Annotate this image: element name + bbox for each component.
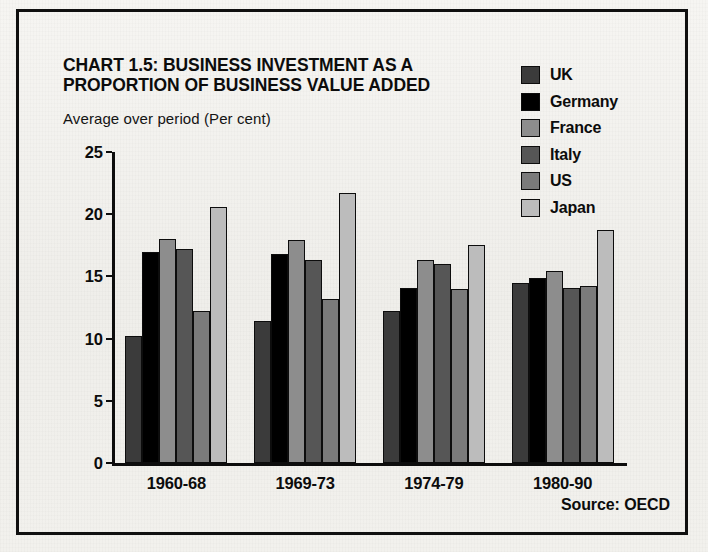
bar-japan xyxy=(210,207,227,463)
y-axis-tick-label: 20 xyxy=(85,205,103,224)
y-axis-tick-label: 0 xyxy=(94,454,103,473)
legend-label: Germany xyxy=(550,93,618,111)
bar-france xyxy=(546,271,563,463)
bar-france xyxy=(288,240,305,463)
source-note: Source: OECD xyxy=(561,496,670,514)
x-axis-category-label: 1969-73 xyxy=(276,474,335,493)
bar-japan xyxy=(597,230,614,463)
bar-group-bars xyxy=(254,152,356,463)
y-axis-tick-label: 5 xyxy=(94,391,103,410)
x-axis-category-label: 1960-68 xyxy=(147,474,206,493)
bar-uk xyxy=(254,321,271,463)
bar-us xyxy=(322,299,339,463)
legend-label: UK xyxy=(550,66,573,84)
bar-group-bars xyxy=(383,152,485,463)
bar-uk xyxy=(125,336,142,463)
bar-japan xyxy=(339,193,356,463)
legend-item: Germany xyxy=(521,89,618,116)
bar-group-bars xyxy=(512,152,614,463)
page-title: CHART 1.5: BUSINESS INVESTMENT AS A PROP… xyxy=(63,55,483,96)
bar-italy xyxy=(176,249,193,463)
bar-group: 1974-79 xyxy=(370,152,499,463)
bar-groups: 1960-681969-731974-791980-90 xyxy=(112,152,627,463)
legend-swatch-icon xyxy=(521,93,540,111)
bar-germany xyxy=(142,252,159,463)
legend-label: France xyxy=(550,119,601,137)
bar-japan xyxy=(468,245,485,463)
bar-italy xyxy=(434,264,451,463)
bar-group: 1969-73 xyxy=(241,152,370,463)
bar-france xyxy=(159,239,176,463)
legend-item: UK xyxy=(521,62,618,89)
chart-subtitle: Average over period (Per cent) xyxy=(63,110,271,127)
x-axis-category-label: 1974-79 xyxy=(404,474,463,493)
bar-us xyxy=(580,286,597,463)
legend-swatch-icon xyxy=(521,119,540,137)
bar-group: 1980-90 xyxy=(498,152,627,463)
chart-page: CHART 1.5: BUSINESS INVESTMENT AS A PROP… xyxy=(0,0,708,552)
bar-us xyxy=(193,311,210,463)
legend-item: France xyxy=(521,115,618,142)
y-axis-tick-label: 25 xyxy=(85,143,103,162)
bar-group-bars xyxy=(125,152,227,463)
bar-group: 1960-68 xyxy=(112,152,241,463)
bar-germany xyxy=(271,254,288,463)
bar-uk xyxy=(383,311,400,463)
y-axis-tick-label: 10 xyxy=(85,329,103,348)
legend-swatch-icon xyxy=(521,66,540,84)
y-axis-tick-label: 15 xyxy=(85,267,103,286)
bar-germany xyxy=(400,288,417,463)
bar-italy xyxy=(305,260,322,463)
x-axis-line xyxy=(112,463,627,466)
bar-us xyxy=(451,289,468,463)
bar-france xyxy=(417,260,434,463)
x-axis-category-label: 1980-90 xyxy=(533,474,592,493)
bar-italy xyxy=(563,288,580,463)
bar-germany xyxy=(529,278,546,463)
bar-uk xyxy=(512,283,529,463)
plot-area: 0510152025 1960-681969-731974-791980-90 xyxy=(112,152,627,463)
